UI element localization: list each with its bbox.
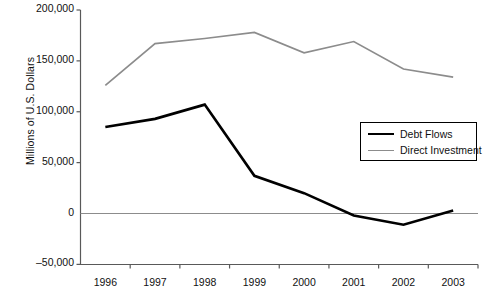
legend-label-direct-investment: Direct Investment <box>400 144 482 156</box>
chart-container: Millions of U.S. Dollars –50,000050,0001… <box>0 0 488 302</box>
series-line-direct-investment <box>105 32 453 85</box>
legend-swatch-direct-investment <box>368 150 394 151</box>
legend-swatch-debt-flows <box>368 133 394 135</box>
chart-legend: Debt Flows Direct Investment <box>360 122 477 161</box>
legend-label-debt-flows: Debt Flows <box>400 128 453 140</box>
legend-item-debt-flows: Debt Flows <box>368 126 453 142</box>
legend-item-direct-investment: Direct Investment <box>368 142 482 158</box>
